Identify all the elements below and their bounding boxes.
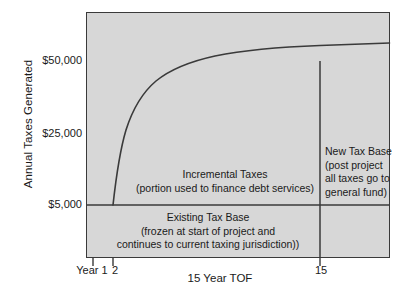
- annotation-existing-tax-base: Existing Tax Base (frozen at start of pr…: [95, 211, 321, 252]
- y-tick-label-50000: $50,000: [4, 54, 82, 66]
- y-tick-label-5000: $5,000: [4, 198, 82, 210]
- x-tick-label-year-15: 15: [315, 264, 327, 276]
- annotation-incremental-taxes: Incremental Taxes (portion used to finan…: [135, 168, 315, 195]
- annotation-newbase-line-1: New Tax Base: [325, 145, 411, 159]
- y-tick-label-25000: $25,000: [4, 127, 82, 139]
- annotation-existing-line-2: (frozen at start of project and: [95, 225, 321, 239]
- annotation-incremental-line-2: (portion used to finance debt services): [135, 182, 315, 196]
- y-tick-label-group: $50,000 $25,000 $5,000: [0, 0, 82, 298]
- annotation-new-tax-base: New Tax Base (post project all taxes go …: [325, 145, 411, 199]
- annotation-newbase-line-2: (post project: [325, 159, 411, 173]
- x-axis-title: 15 Year TOF: [150, 272, 290, 284]
- annotation-newbase-line-3: all taxes go to: [325, 172, 411, 186]
- x-tick-label-year-1: Year 1: [76, 264, 107, 276]
- annotation-incremental-line-1: Incremental Taxes: [135, 168, 315, 182]
- annotation-newbase-line-4: general fund): [325, 186, 411, 200]
- annotation-existing-line-1: Existing Tax Base: [95, 211, 321, 225]
- annotation-existing-line-3: continues to current taxing jurisdiction…: [95, 238, 321, 252]
- tif-tax-increment-chart: Annual Taxes Generated $50,000 $25,000 $…: [0, 0, 414, 298]
- x-tick-label-year-2: 2: [112, 264, 118, 276]
